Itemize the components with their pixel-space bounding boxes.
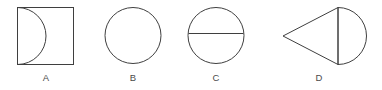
figure-b-label: B: [123, 72, 143, 84]
figure-d-group: [283, 8, 367, 65]
figure-a-label: A: [36, 72, 56, 84]
figure-panel: A B C D: [0, 0, 382, 90]
figure-d-label: D: [309, 72, 329, 84]
figure-c-group: [188, 8, 244, 64]
figure-d-semicircle: [338, 8, 367, 65]
figure-b-group: [105, 8, 161, 64]
figure-c-circle: [188, 8, 244, 64]
figure-c-label: C: [206, 72, 226, 84]
figure-d-triangle: [283, 8, 338, 65]
figure-b-circle: [105, 8, 161, 64]
figure-a-group: [18, 8, 74, 65]
figure-a-arc: [18, 8, 47, 65]
